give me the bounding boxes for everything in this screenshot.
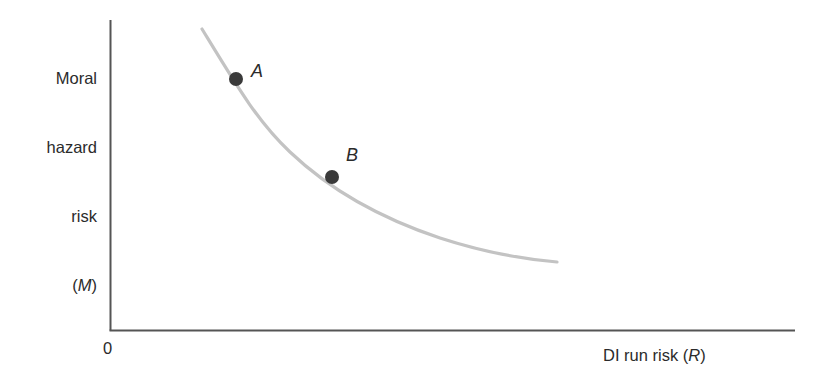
y-axis-title: Moral hazard risk (M) bbox=[0, 21, 97, 343]
x-axis-title-text: DI run risk ( bbox=[603, 346, 688, 364]
y-axis-variable-symbol: M bbox=[78, 276, 92, 294]
x-axis-variable-symbol: R bbox=[688, 346, 700, 364]
data-point-label-b: B bbox=[346, 145, 358, 165]
plot-area bbox=[0, 0, 833, 388]
y-axis-variable-line: (M) bbox=[0, 274, 97, 297]
x-axis-title-suffix: ) bbox=[700, 346, 706, 364]
x-axis-title: DI run risk (R) bbox=[603, 344, 706, 367]
y-axis-paren-close: ) bbox=[92, 276, 98, 294]
y-axis-title-line-2: hazard bbox=[0, 136, 97, 159]
axis-lines bbox=[110, 20, 796, 331]
y-axis-title-line-1: Moral bbox=[0, 67, 97, 90]
data-point-b bbox=[325, 170, 339, 184]
data-point-label-a: A bbox=[251, 61, 263, 81]
y-axis-title-line-3: risk bbox=[0, 205, 97, 228]
data-point-a bbox=[229, 72, 243, 86]
figure-canvas: Moral hazard risk (M) DI run risk (R) 0 … bbox=[0, 0, 833, 388]
origin-tick-label: 0 bbox=[103, 338, 112, 358]
